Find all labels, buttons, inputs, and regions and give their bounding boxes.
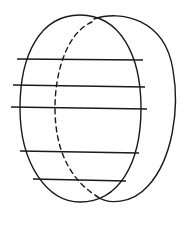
horizontal-line-5 bbox=[33, 179, 126, 181]
horizontal-line-2 bbox=[13, 85, 145, 87]
horizontal-line-3 bbox=[11, 107, 147, 109]
horizontal-line-4 bbox=[20, 151, 139, 153]
hidden-edge bbox=[55, 22, 98, 197]
horizontal-line-1 bbox=[17, 59, 143, 60]
surface-diagram bbox=[0, 0, 188, 228]
